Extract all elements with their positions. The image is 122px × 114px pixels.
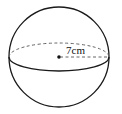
equator-front: [9, 57, 109, 71]
equator-back-dashed: [9, 43, 109, 57]
sphere-diagram: 7cm: [0, 0, 122, 114]
radius-label: 7cm: [66, 44, 85, 56]
